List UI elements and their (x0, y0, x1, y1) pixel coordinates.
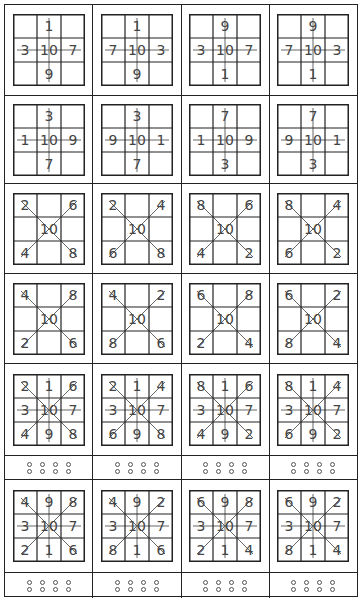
grid-number: 3 (156, 42, 165, 58)
center-number: 10 (40, 311, 58, 327)
answer-dots-cell (93, 456, 181, 479)
grid-number: 9 (44, 494, 53, 510)
grid-number: 3 (108, 402, 117, 418)
grid-number: 6 (68, 335, 77, 351)
circle-icon (291, 587, 296, 592)
center-number: 10 (304, 402, 322, 418)
grid-number: 3 (333, 42, 342, 58)
grid-number: 8 (156, 426, 165, 442)
circle-icon (304, 587, 309, 592)
circle-icon (317, 580, 322, 585)
grid-number: 9 (309, 18, 318, 34)
grid-row: 131079171039931071971031 (5, 5, 357, 96)
grid-number: 1 (197, 132, 206, 148)
circle-icon (53, 469, 58, 474)
puzzle-cell: 2163107498 (5, 364, 93, 455)
puzzle-cell: 6923107814 (270, 480, 357, 572)
grid-row: 261048241068861042841062 (5, 184, 357, 274)
center-number: 10 (40, 42, 58, 58)
circle-icon (53, 580, 58, 585)
grid-number: 9 (309, 426, 318, 442)
grid-number: 9 (132, 66, 141, 82)
circle-icon (128, 469, 133, 474)
circle-icon (330, 587, 335, 592)
circle-icon (216, 580, 221, 585)
puzzle-cell: 971031 (270, 5, 357, 95)
circle-icon (229, 580, 234, 585)
grid-number: 1 (44, 542, 53, 558)
center-number: 10 (304, 311, 322, 327)
grid-number: 6 (68, 542, 77, 558)
answer-dots-cell (5, 573, 93, 598)
grid-number: 3 (20, 402, 29, 418)
grid-number: 8 (245, 287, 254, 303)
grid-number: 7 (44, 156, 53, 172)
grid-number: 9 (285, 132, 294, 148)
grid-number: 2 (156, 287, 165, 303)
magic-grid: 391017 (101, 104, 173, 176)
circle-icon (40, 462, 45, 467)
dots-row (5, 456, 357, 480)
grid-number: 6 (285, 426, 294, 442)
grid-number: 4 (333, 378, 342, 394)
answer-dots-cell (270, 573, 357, 598)
grid-number: 3 (108, 518, 117, 534)
grid-number: 8 (68, 245, 77, 261)
puzzle-cell: 2143107698 (93, 364, 181, 455)
grid-number: 6 (245, 197, 254, 213)
grid-row: 4983107216492310781669831072146923107814 (5, 480, 357, 573)
circle-icon (40, 580, 45, 585)
grid-number: 9 (221, 18, 230, 34)
grid-number: 3 (221, 156, 230, 172)
grid-number: 7 (333, 518, 342, 534)
center-number: 10 (216, 42, 234, 58)
grid-number: 2 (197, 542, 206, 558)
puzzle-cell: 6983107214 (182, 480, 270, 572)
circle-icon (203, 462, 208, 467)
circle-icon (128, 587, 133, 592)
grid-number: 7 (68, 402, 77, 418)
circle-icon (242, 469, 247, 474)
grid-number: 1 (221, 66, 230, 82)
grid-row: 481026421086681024621084 (5, 274, 357, 364)
puzzle-cell: 241068 (93, 184, 181, 273)
grid-number: 2 (333, 494, 342, 510)
grid-number: 8 (108, 542, 117, 558)
puzzle-cell: 481026 (5, 274, 93, 363)
center-number: 10 (128, 221, 146, 237)
circle-icon (115, 587, 120, 592)
circle-icon (216, 462, 221, 467)
grid-number: 8 (285, 542, 294, 558)
grid-number: 1 (309, 378, 318, 394)
grid-number: 6 (68, 197, 77, 213)
dot-pattern (93, 573, 180, 598)
grid-number: 2 (333, 245, 342, 261)
grid-number: 4 (20, 245, 29, 261)
circle-icon (128, 580, 133, 585)
grid-number: 2 (20, 197, 29, 213)
circle-icon (27, 580, 32, 585)
grid-number: 7 (333, 402, 342, 418)
puzzle-cell: 681024 (182, 274, 270, 363)
answer-dots-cell (182, 573, 270, 598)
grid-number: 9 (68, 132, 77, 148)
grid-number: 1 (333, 132, 342, 148)
circle-icon (115, 580, 120, 585)
grid-number: 4 (20, 426, 29, 442)
puzzle-cell: 8163107492 (182, 364, 270, 455)
grid-number: 9 (108, 132, 117, 148)
magic-grid: 841062 (277, 193, 349, 265)
circle-icon (330, 462, 335, 467)
grid-number: 7 (156, 402, 165, 418)
center-number: 10 (128, 311, 146, 327)
puzzle-cell: 311097 (5, 96, 93, 183)
circle-icon (317, 587, 322, 592)
grid-number: 2 (20, 542, 29, 558)
circle-icon (141, 469, 146, 474)
circle-icon (128, 462, 133, 467)
grid-number: 2 (333, 426, 342, 442)
puzzle-cell: 131079 (5, 5, 93, 95)
grid-number: 7 (245, 42, 254, 58)
grid-number: 3 (285, 402, 294, 418)
circle-icon (229, 469, 234, 474)
